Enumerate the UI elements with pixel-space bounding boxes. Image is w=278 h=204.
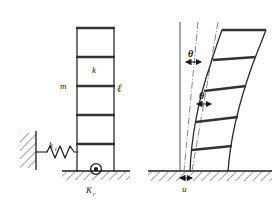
label-translational-spring: k <box>49 140 54 150</box>
right-ground-support <box>148 171 272 181</box>
label-translational-spring-subscript: t <box>55 146 57 152</box>
label-theta-upper: θ <box>188 48 194 59</box>
label-rotational-spring-subscript: r <box>93 191 96 197</box>
fixed-wall-support <box>20 131 47 170</box>
deformed-column-right <box>228 30 266 172</box>
undeformed-frame-columns <box>77 28 114 172</box>
figure-canvas: m k ℓ k t K r <box>0 0 278 204</box>
right-panel-group <box>148 22 272 181</box>
left-panel-group <box>20 28 130 180</box>
label-base-displacement-u: u <box>182 184 187 194</box>
label-storey-height: ℓ <box>117 82 122 94</box>
structural-dynamics-figure: m k ℓ k t K r <box>0 0 278 204</box>
undeformed-frame-floors <box>76 28 115 144</box>
label-mass-m: m <box>60 81 67 91</box>
label-theta-lower: θ <box>199 90 205 101</box>
label-stiffness-k: k <box>92 65 97 75</box>
left-ground-support <box>62 171 130 180</box>
label-rotational-spring: K <box>85 185 93 195</box>
